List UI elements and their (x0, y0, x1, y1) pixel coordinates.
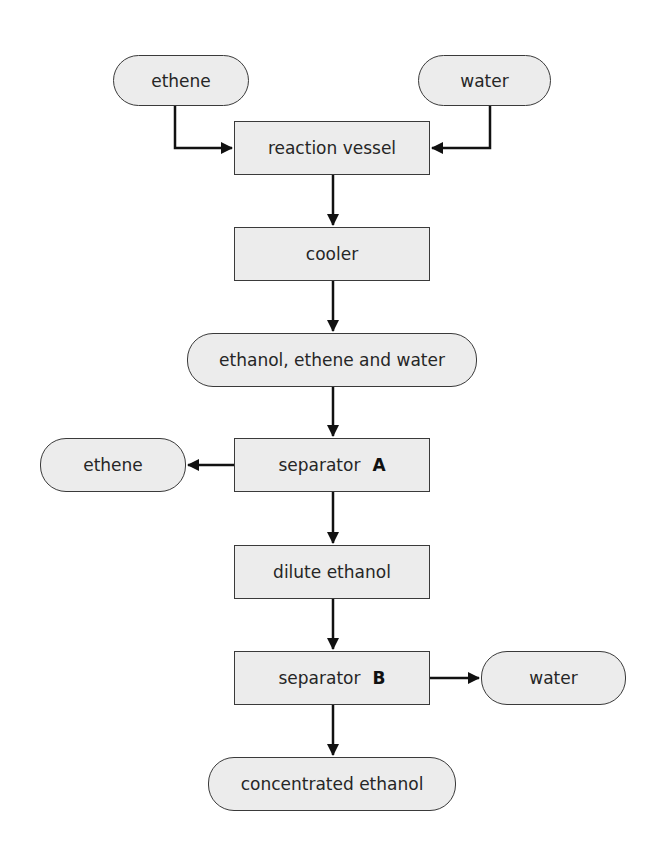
node-label: separator (279, 668, 361, 688)
node-mixture: ethanol, ethene and water (187, 333, 477, 387)
arrow-water-in-to-reaction-vessel (432, 106, 490, 148)
node-label: reaction vessel (268, 138, 396, 158)
node-label: ethene (151, 71, 211, 91)
node-label: dilute ethanol (273, 562, 391, 582)
node-reaction-vessel: reaction vessel (234, 121, 430, 175)
node-label-suffix: B (373, 668, 386, 688)
node-separator-a: separatorA (234, 438, 430, 492)
node-label: ethene (83, 455, 143, 475)
node-label: cooler (306, 244, 358, 264)
node-label: concentrated ethanol (241, 774, 424, 794)
node-label: ethanol, ethene and water (219, 350, 445, 370)
node-cooler: cooler (234, 227, 430, 281)
node-dilute-ethanol: dilute ethanol (234, 545, 430, 599)
node-concentrated-ethanol: concentrated ethanol (208, 757, 456, 811)
node-ethene-out: ethene (40, 438, 186, 492)
arrow-ethene-in-to-reaction-vessel (175, 106, 232, 148)
node-ethene-in: ethene (113, 55, 249, 106)
node-separator-b: separatorB (234, 651, 430, 705)
node-water-out: water (481, 651, 626, 705)
node-label: separator (278, 455, 360, 475)
flowchart-canvas: ethenewaterreaction vesselcoolerethanol,… (0, 0, 655, 857)
node-label: water (529, 668, 577, 688)
node-label-suffix: A (372, 455, 385, 475)
node-label: water (460, 71, 508, 91)
node-water-in: water (418, 55, 551, 106)
